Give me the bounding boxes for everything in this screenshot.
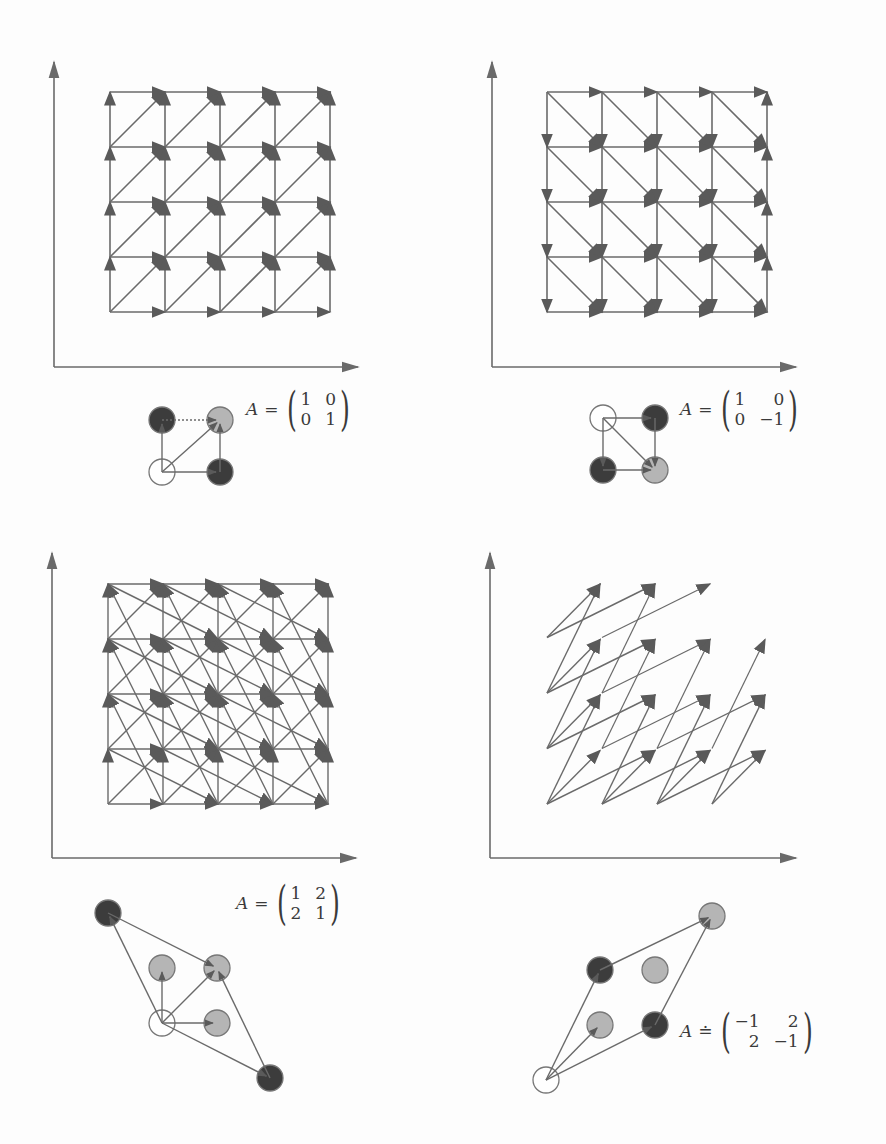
vector-arrow bbox=[273, 584, 328, 639]
panel-identity bbox=[54, 62, 358, 367]
panel-symmetric-positive bbox=[52, 553, 356, 858]
vector-arrow bbox=[602, 584, 710, 638]
left-paren: ( bbox=[721, 1008, 731, 1054]
matrix-cell: 2 bbox=[774, 1011, 799, 1031]
vector-arrow bbox=[657, 92, 712, 147]
vector-arrow bbox=[110, 92, 165, 147]
vector-arrow bbox=[547, 584, 600, 638]
matrix-symbol: A bbox=[246, 399, 258, 419]
matrix-label-identity: A = ( 1 0 0 1 ) bbox=[246, 386, 354, 432]
vector-arrow bbox=[602, 751, 655, 805]
vector-arrow bbox=[602, 695, 710, 749]
vector-arrow bbox=[220, 92, 275, 147]
vector-arrow bbox=[547, 202, 602, 257]
equals-sign: ≐ bbox=[698, 1021, 712, 1041]
vector-arrow bbox=[712, 92, 767, 147]
vector-arrow bbox=[163, 749, 218, 804]
left-paren: ( bbox=[287, 386, 297, 432]
vector-arrow bbox=[218, 694, 273, 749]
vector-arrow bbox=[602, 147, 657, 202]
vector-arrow bbox=[218, 749, 273, 804]
vector-arrow bbox=[712, 695, 765, 804]
vector-arrow bbox=[657, 751, 765, 805]
matrix-label-symmetric-positive: A = ( 1 2 2 1 ) bbox=[236, 880, 344, 926]
matrix-cell: 0 bbox=[300, 409, 311, 429]
vector-arrow bbox=[108, 694, 163, 749]
vector-arrow bbox=[547, 257, 602, 312]
vector-arrow bbox=[712, 202, 767, 257]
vector-arrow bbox=[273, 694, 328, 749]
matrix-cell: 0 bbox=[325, 389, 336, 409]
vector-arrow bbox=[602, 257, 657, 312]
matrix-label-reflection: A = ( 1 0 0 −1 ) bbox=[680, 386, 802, 432]
mini-arrow bbox=[546, 1028, 597, 1080]
matrix-entries: 1 0 0 −1 bbox=[734, 389, 784, 429]
vector-arrow bbox=[547, 640, 600, 749]
vector-arrow bbox=[602, 202, 657, 257]
vector-arrow bbox=[602, 640, 655, 749]
vector-arrow bbox=[273, 639, 328, 694]
panel-symmetric-negative bbox=[490, 553, 796, 858]
matrix-cell: 0 bbox=[734, 409, 745, 429]
matrix-cell: 1 bbox=[325, 409, 336, 429]
mini-diagram-reflection bbox=[590, 405, 668, 483]
matrix-cell: 2 bbox=[734, 1031, 759, 1051]
vector-arrow bbox=[547, 695, 600, 804]
vector-arrow bbox=[220, 257, 275, 312]
equals-sign: = bbox=[698, 399, 712, 419]
vector-arrow bbox=[547, 584, 600, 693]
vector-arrow bbox=[165, 147, 220, 202]
matrix-cell: 1 bbox=[300, 389, 311, 409]
matrix-cell: 1 bbox=[290, 883, 301, 903]
vector-arrow bbox=[218, 639, 273, 694]
matrix-cell: 2 bbox=[290, 903, 301, 923]
matrix-entries: −1 2 2 −1 bbox=[734, 1011, 798, 1051]
vector-arrow bbox=[547, 695, 600, 749]
gray-node bbox=[699, 903, 725, 929]
matrix-symbol: A bbox=[680, 399, 692, 419]
vector-arrow bbox=[110, 202, 165, 257]
vector-arrow bbox=[602, 695, 655, 804]
vector-arrow bbox=[273, 749, 328, 804]
gray-node bbox=[642, 957, 668, 983]
vector-arrow bbox=[547, 640, 655, 694]
vector-arrow bbox=[602, 584, 655, 693]
vector-arrow bbox=[275, 92, 330, 147]
vector-arrow bbox=[218, 584, 273, 639]
vector-arrow bbox=[163, 639, 218, 694]
vector-arrow bbox=[547, 751, 600, 805]
matrix-cell: 1 bbox=[734, 389, 745, 409]
vector-arrow bbox=[547, 92, 602, 147]
vector-arrow bbox=[275, 257, 330, 312]
matrix-entries: 1 0 0 1 bbox=[300, 389, 336, 429]
panel-reflection bbox=[492, 62, 796, 367]
left-paren: ( bbox=[277, 880, 287, 926]
matrix-cell: −1 bbox=[774, 1031, 799, 1051]
vector-arrow bbox=[108, 749, 163, 804]
vector-arrow bbox=[108, 639, 163, 694]
vector-arrow bbox=[657, 257, 712, 312]
vector-arrow bbox=[712, 147, 767, 202]
vector-arrow bbox=[275, 202, 330, 257]
matrix-label-symmetric-negative: A ≐ ( −1 2 2 −1 ) bbox=[680, 1008, 817, 1054]
vector-arrow bbox=[165, 202, 220, 257]
vector-arrow bbox=[657, 751, 710, 805]
vector-arrow bbox=[165, 257, 220, 312]
matrix-cell: −1 bbox=[734, 1011, 759, 1031]
right-paren: ) bbox=[330, 880, 340, 926]
matrix-cell: −1 bbox=[759, 409, 784, 429]
vector-arrow bbox=[657, 695, 710, 804]
right-paren: ) bbox=[788, 386, 798, 432]
vector-arrow bbox=[547, 640, 600, 694]
vector-arrow bbox=[547, 584, 655, 638]
matrix-symbol: A bbox=[680, 1021, 692, 1041]
matrix-symbol: A bbox=[236, 893, 248, 913]
vector-arrow bbox=[602, 92, 657, 147]
vector-arrow bbox=[110, 257, 165, 312]
vector-arrow bbox=[602, 751, 710, 805]
vector-arrow bbox=[657, 147, 712, 202]
matrix-cell: 2 bbox=[315, 883, 326, 903]
vector-arrow bbox=[163, 694, 218, 749]
mini-diagram-identity bbox=[149, 407, 233, 485]
left-paren: ( bbox=[721, 386, 731, 432]
